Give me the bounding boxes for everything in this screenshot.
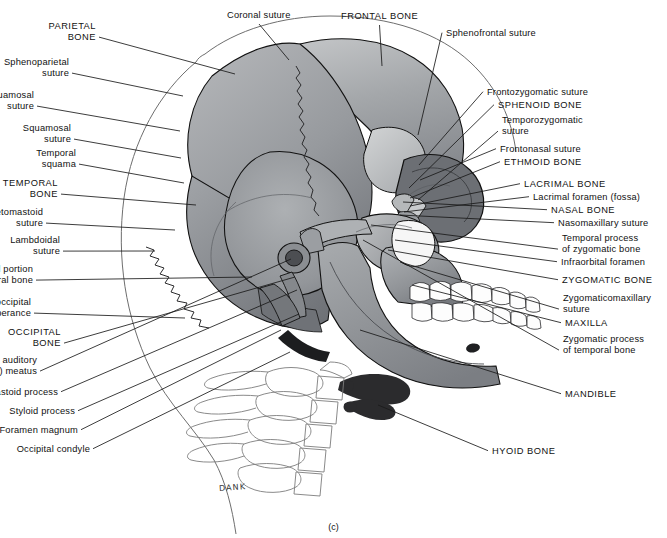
- hyoid-bone-shape: [338, 374, 410, 420]
- cervical-vertebrae: [187, 362, 352, 496]
- artist-signature: DANK: [219, 482, 247, 493]
- leader-parietomastoid-suture: [46, 223, 175, 230]
- leader-parietal-bone: [99, 37, 235, 74]
- leader-styloid-process: [78, 314, 299, 411]
- foramen-magnum-shadow: [278, 330, 330, 362]
- teeth: [410, 281, 541, 329]
- leader-external-occipital-prot: [34, 313, 185, 318]
- leader-temporal-bone: [61, 194, 196, 205]
- leader-temporal-squama: [79, 164, 184, 183]
- skull-lateral-illustration: [0, 0, 667, 538]
- figure-caption: (c): [0, 522, 667, 532]
- leader-mastoid-process: [61, 290, 297, 392]
- leader-hyoid-bone: [378, 405, 488, 451]
- leader-sphenoparietal-suture: [72, 73, 183, 96]
- leader-sphenosquamosal-suture: [37, 106, 180, 131]
- leader-occipital-condyle: [93, 352, 290, 449]
- leader-squamosal-suture: [74, 139, 181, 158]
